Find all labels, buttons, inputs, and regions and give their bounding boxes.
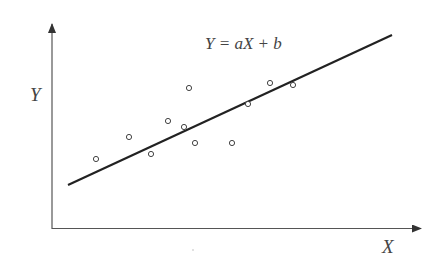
data-point bbox=[229, 140, 234, 145]
data-point bbox=[165, 118, 170, 123]
data-point bbox=[186, 85, 191, 90]
equation-label: Y = aX + b bbox=[205, 34, 282, 53]
data-point bbox=[148, 151, 153, 156]
data-point bbox=[126, 134, 131, 139]
data-point bbox=[192, 140, 197, 145]
data-point bbox=[245, 101, 250, 106]
regression-line bbox=[68, 35, 392, 185]
stray-dot bbox=[192, 249, 194, 251]
x-axis-label: X bbox=[381, 236, 395, 257]
data-point bbox=[93, 156, 98, 161]
regression-diagram: Y X Y = aX + b bbox=[0, 0, 448, 280]
data-point bbox=[267, 80, 272, 85]
data-point bbox=[290, 82, 295, 87]
data-point bbox=[181, 124, 186, 129]
y-axis-label: Y bbox=[30, 84, 43, 105]
